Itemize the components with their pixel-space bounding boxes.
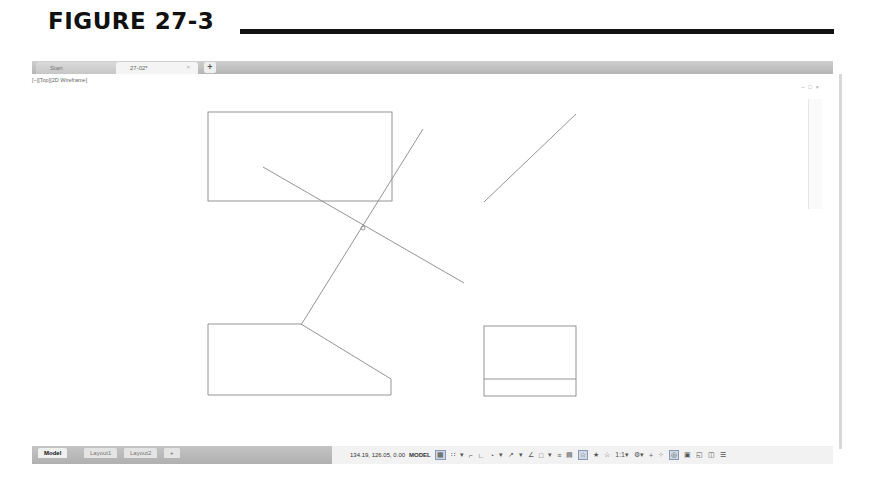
layout-tab-model[interactable]: Model bbox=[38, 448, 67, 458]
object-snap-icon[interactable]: □ bbox=[539, 452, 543, 459]
annotation-monitor-icon[interactable]: + bbox=[649, 452, 653, 459]
ortho-icon[interactable]: ∟ bbox=[478, 452, 485, 459]
status-tray: 134.19, 126.05, 0.00 MODEL ▦∷▾⌐∟◔▾↗▾∠□▾≡… bbox=[332, 446, 833, 464]
lower-right-rectangle[interactable] bbox=[484, 326, 576, 396]
layout-tab-layout2[interactable]: Layout2 bbox=[124, 448, 157, 458]
annotation-visibility-icon[interactable]: ☆ bbox=[578, 450, 588, 460]
tab-drawing-label: 27-02* bbox=[130, 65, 148, 71]
drawing-canvas[interactable] bbox=[32, 74, 824, 442]
file-tab-bar: Start 27-02* × + bbox=[32, 61, 833, 74]
autocad-window: Start 27-02* × + [−][Top][2D Wireframe] … bbox=[32, 61, 833, 464]
close-icon[interactable]: × bbox=[186, 64, 190, 70]
quick-properties-icon[interactable]: ◫ bbox=[708, 451, 715, 459]
transparency-icon[interactable]: ▤ bbox=[566, 451, 573, 459]
new-tab-button[interactable]: + bbox=[204, 62, 216, 73]
infer-constraints-icon[interactable]: ⌐ bbox=[469, 452, 473, 459]
scale-label[interactable]: 1:1▾ bbox=[615, 451, 629, 459]
lower-left-profile[interactable] bbox=[208, 324, 391, 395]
upper-rectangle[interactable] bbox=[208, 112, 392, 201]
figure-rule bbox=[240, 29, 834, 34]
figure-title: FIGURE 27-3 bbox=[48, 8, 214, 34]
cursor-coordinates[interactable]: 134.19, 126.05, 0.00 bbox=[350, 452, 405, 458]
auto-scale-icon[interactable]: ★ bbox=[593, 451, 599, 459]
tab-start[interactable]: Start bbox=[36, 62, 126, 74]
snap-dropdown-icon[interactable]: ▾ bbox=[460, 451, 464, 459]
lineweight-icon[interactable]: ≡ bbox=[557, 452, 561, 459]
tab-start-label: Start bbox=[50, 65, 63, 71]
vertical-scrollbar[interactable] bbox=[839, 74, 842, 449]
diagonal-line-b[interactable] bbox=[301, 129, 423, 325]
osnap-dropdown-icon[interactable]: ▾ bbox=[548, 451, 552, 459]
object-snap-tracking-icon[interactable]: ∠ bbox=[528, 451, 534, 459]
layout-tab-layout1[interactable]: Layout1 bbox=[84, 448, 117, 458]
isolate-objects-icon[interactable]: ◎ bbox=[669, 450, 679, 460]
isolated-line[interactable] bbox=[484, 114, 576, 202]
add-layout-button[interactable]: + bbox=[164, 448, 180, 458]
status-bar: Model Layout1 Layout2 + 134.19, 126.05, … bbox=[32, 446, 833, 464]
tab-drawing-27-02[interactable]: 27-02* × bbox=[116, 62, 198, 74]
polar-icon[interactable]: ◔ bbox=[490, 452, 494, 459]
customization-menu-icon[interactable]: ☰ bbox=[720, 451, 726, 459]
snap-icon[interactable]: ∷ bbox=[451, 451, 455, 459]
clean-screen-icon[interactable]: ◱ bbox=[696, 451, 703, 459]
drawing-viewport[interactable]: [−][Top][2D Wireframe] – □ × × 🔧 ⌨▾ ▴ bbox=[32, 74, 824, 442]
workspace-gear-icon[interactable]: ⚙▾ bbox=[634, 451, 644, 459]
units-icon[interactable]: ⁘ bbox=[658, 451, 664, 459]
isodraft-dropdown-icon[interactable]: ▾ bbox=[519, 451, 523, 459]
isodraft-icon[interactable]: ↗ bbox=[508, 451, 514, 459]
grid-icon[interactable]: ▦ bbox=[435, 450, 446, 460]
model-space-toggle[interactable]: MODEL bbox=[409, 452, 431, 458]
hardware-acceleration-icon[interactable]: ▣ bbox=[684, 451, 691, 459]
status-toggle-group: ▦∷▾⌐∟◔▾↗▾∠□▾≡▤☆★☆1:1▾⚙▾+⁘◎▣◱◫☰ bbox=[435, 450, 726, 460]
annotation-scale-icon[interactable]: ☆ bbox=[604, 451, 610, 459]
polar-dropdown-icon[interactable]: ▾ bbox=[499, 451, 503, 459]
